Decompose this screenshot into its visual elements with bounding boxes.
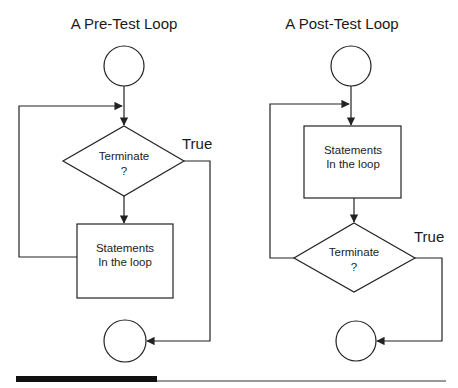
- end-terminal: [336, 321, 376, 361]
- process-label-1: Statements: [324, 144, 382, 156]
- true-label: True: [414, 228, 444, 245]
- process-label-2: In the loop: [326, 158, 380, 170]
- decision-question: ?: [121, 165, 127, 177]
- process-label-1: Statements: [96, 242, 154, 254]
- decision-question: ?: [351, 261, 357, 273]
- footer-bar: [16, 376, 157, 382]
- start-terminal: [104, 46, 144, 86]
- process-label-2: In the loop: [98, 256, 152, 268]
- decision-label: Terminate: [99, 150, 150, 162]
- end-terminal: [104, 320, 146, 362]
- decision-label: Terminate: [329, 246, 380, 258]
- pre-test-loop-diagram: A Pre-Test Loop Terminate ? Statements I…: [19, 15, 212, 362]
- true-label: True: [182, 135, 212, 152]
- post-test-loop-diagram: A Post-Test Loop Statements In the loop …: [270, 15, 444, 361]
- start-terminal: [331, 46, 371, 86]
- post-test-title: A Post-Test Loop: [285, 15, 398, 32]
- pre-test-title: A Pre-Test Loop: [71, 15, 178, 32]
